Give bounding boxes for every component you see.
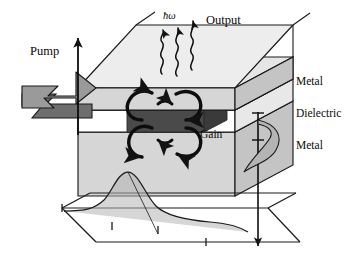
diagram-canvas: [0, 0, 347, 270]
metal-top-band-front: [78, 88, 235, 110]
pump-label: Pump: [30, 45, 59, 58]
metal-bottom-label: Metal: [296, 140, 323, 152]
back-corner-line-a: [136, 12, 155, 25]
base-left-edge: [62, 193, 90, 208]
back-corner-line-b: [293, 13, 310, 25]
metal-top-label: Metal: [296, 76, 323, 88]
photon-energy-label: ħω: [163, 11, 176, 22]
base-diag-right: [268, 208, 300, 242]
metal-bottom-front-face: [78, 132, 235, 196]
output-label: Output: [206, 14, 241, 27]
plasmonic-waveguide-diagram: Pump ħω Output Metal Dielectric Metal Ga…: [0, 0, 347, 270]
dielectric-label: Dielectric: [296, 108, 341, 120]
gain-label: Gain: [200, 129, 222, 141]
base-right-edge: [268, 193, 296, 208]
